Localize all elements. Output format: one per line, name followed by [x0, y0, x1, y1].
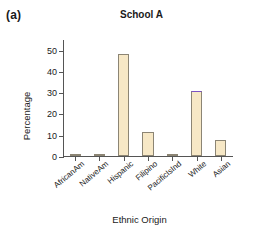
chart-figure: (a) School A Percentage 01020304050 Afri…	[0, 0, 253, 231]
y-tick	[59, 72, 63, 73]
bar-asian	[215, 140, 226, 156]
bar-nativeam	[94, 154, 105, 156]
x-tick-label-asian: Asian	[212, 160, 232, 179]
y-tick-label: 40	[47, 67, 57, 76]
y-tick-label: 30	[47, 89, 57, 98]
bar-filipino	[142, 132, 153, 156]
plot-area: 01020304050	[63, 40, 233, 157]
y-tick	[59, 114, 63, 115]
y-tick	[59, 157, 63, 158]
y-tick-label: 20	[47, 110, 57, 119]
chart-title: School A	[0, 9, 253, 20]
y-axis-title: Percentage	[21, 91, 32, 140]
x-axis-labels: AfricanAmNativeAmHispanicFilipinoPacific…	[63, 160, 233, 204]
y-tick-label: 10	[47, 131, 57, 140]
y-tick	[59, 136, 63, 137]
y-tick	[59, 93, 63, 94]
y-tick	[59, 51, 63, 52]
x-tick-label-hispanic: Hispanic	[106, 160, 135, 186]
bar-pacificisind	[167, 154, 178, 156]
x-tick-label-white: White	[187, 160, 208, 179]
y-tick-label: 50	[47, 46, 57, 55]
bar-africanam	[70, 154, 81, 156]
y-tick-label: 0	[52, 153, 57, 162]
x-axis-title: Ethnic Origin	[0, 214, 253, 225]
bar-hispanic	[118, 54, 129, 156]
bar-white	[191, 91, 202, 156]
y-axis-line	[63, 40, 64, 158]
